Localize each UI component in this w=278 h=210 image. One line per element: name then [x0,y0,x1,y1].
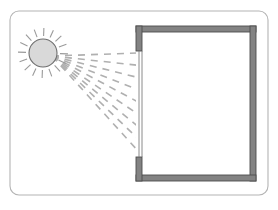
wall-left-lower-stub [136,157,142,181]
wall-top [136,26,256,32]
diagram-canvas [0,0,278,210]
wall-bottom [136,175,256,181]
solar-gain-diagram [0,0,278,210]
sun-disc [29,39,57,67]
wall-left-upper-stub [136,26,142,51]
room-interior [136,26,256,181]
room-walls [136,26,256,181]
wall-right [250,26,256,181]
